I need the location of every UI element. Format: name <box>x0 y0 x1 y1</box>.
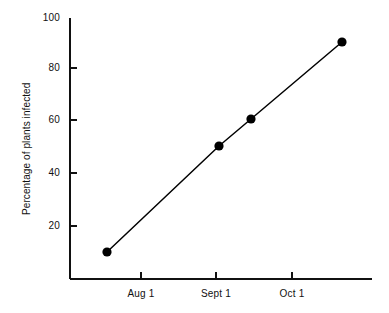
x-axis-tick-label: Oct 1 <box>247 289 337 299</box>
y-axis-tick-label: 20 <box>14 221 60 231</box>
x-axis-tick-marks <box>141 272 292 279</box>
data-point-markers <box>102 37 346 256</box>
data-series-line <box>107 42 342 252</box>
y-axis-tick-label: 100 <box>14 13 60 23</box>
data-point-marker <box>214 141 223 150</box>
data-point-marker <box>102 247 111 256</box>
y-axis-tick-label: 80 <box>14 63 60 73</box>
line-chart-plot <box>0 0 389 313</box>
chart-container: 10080604020 Aug 1Sept 1Oct 1 Percentage … <box>0 0 389 313</box>
y-axis-title: Percentage of plants infected <box>22 82 32 214</box>
data-point-marker <box>246 114 255 123</box>
data-point-marker <box>337 37 346 46</box>
y-axis-tick-marks <box>70 68 77 226</box>
